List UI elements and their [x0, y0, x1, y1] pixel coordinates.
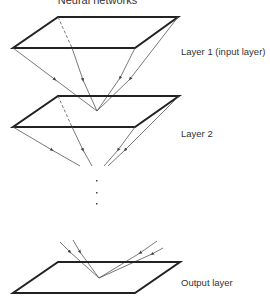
output-layer-plane	[13, 262, 180, 293]
output-layer-arrows	[60, 240, 163, 278]
layer-2-arrows	[13, 96, 179, 166]
layer-2-label: Layer 2	[181, 128, 213, 139]
layer-1-label: Layer 1 (input layer)	[181, 46, 265, 57]
output-layer-label: Output layer	[181, 277, 233, 288]
layer-1-plane	[13, 17, 178, 48]
ellipsis-dots	[96, 180, 98, 205]
layer-2-plane	[13, 96, 179, 127]
